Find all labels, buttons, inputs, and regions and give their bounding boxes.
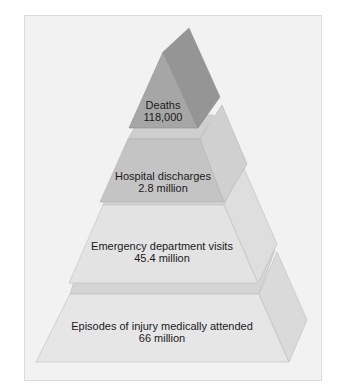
- label-hospital-title: Hospital discharges: [115, 170, 211, 182]
- label-deaths: Deaths 118,000: [144, 99, 183, 123]
- level-episodes-top: [0, 0, 68, 100]
- label-hospital: Hospital discharges 2.8 million: [115, 170, 211, 194]
- label-emergency: Emergency department visits 45.4 million: [91, 240, 233, 264]
- label-episodes-title: Episodes of injury medically attended: [71, 320, 253, 332]
- label-deaths-title: Deaths: [144, 99, 183, 111]
- label-episodes-value: 66 million: [71, 332, 253, 344]
- label-emergency-value: 45.4 million: [91, 252, 233, 264]
- label-deaths-value: 118,000: [144, 111, 183, 123]
- label-hospital-value: 2.8 million: [115, 182, 211, 194]
- label-episodes: Episodes of injury medically attended 66…: [71, 320, 253, 344]
- label-emergency-title: Emergency department visits: [91, 240, 233, 252]
